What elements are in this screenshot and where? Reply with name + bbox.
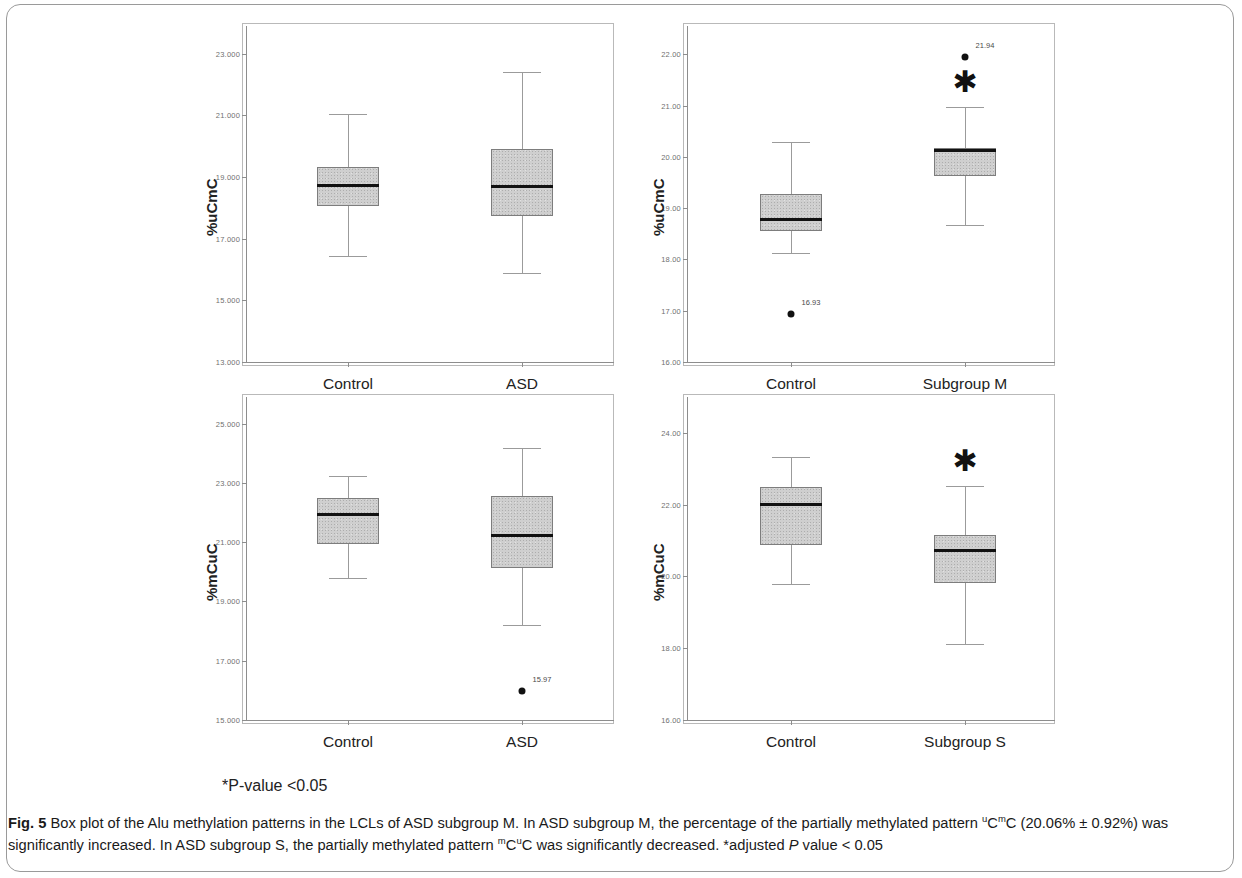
median-line (934, 149, 996, 152)
whisker-lower (791, 231, 792, 253)
whisker-cap-lower (772, 253, 809, 254)
outlier-value-label: 15.97 (533, 675, 552, 684)
y-axis-tick (242, 177, 247, 178)
y-axis-tick (683, 259, 688, 260)
y-axis-tick (242, 239, 247, 240)
box-iqr (317, 498, 379, 545)
x-axis-tick (522, 363, 523, 367)
whisker-cap-upper (503, 448, 540, 449)
x-axis-line (246, 720, 614, 721)
x-axis-tick (791, 721, 792, 725)
x-axis-tick (791, 363, 792, 367)
y-axis-tick (242, 720, 247, 721)
outlier-point (519, 688, 526, 695)
caption-text-3: was significantly decreased. *adjusted (532, 837, 788, 853)
y-axis-line (687, 397, 688, 720)
whisker-cap-upper (772, 142, 809, 143)
y-axis-tick-label: 25.000 (188, 419, 240, 428)
y-axis-title: %mCuC (650, 543, 667, 601)
y-axis-tick (683, 576, 688, 577)
box-iqr (934, 148, 996, 176)
caption-c2: C (1006, 815, 1017, 831)
y-axis-tick-label: 18.00 (629, 255, 681, 264)
whisker-cap-lower (329, 578, 366, 579)
whisker-upper (522, 448, 523, 496)
whisker-cap-lower (946, 225, 983, 226)
y-axis-tick (242, 542, 247, 543)
whisker-lower (965, 583, 966, 644)
pvalue-note: *P-value <0.05 (222, 777, 327, 795)
outlier-value-label: 16.93 (802, 298, 821, 307)
significance-asterisk: ✱ (952, 67, 977, 97)
whisker-upper (965, 107, 966, 148)
plot-area (683, 23, 1055, 366)
box-iqr (491, 496, 553, 569)
y-axis-title: %uCmC (203, 178, 220, 236)
median-line (934, 549, 996, 552)
whisker-upper (522, 72, 523, 150)
y-axis-tick (683, 106, 688, 107)
y-axis-tick-label: 21.000 (188, 111, 240, 120)
y-axis-tick (683, 648, 688, 649)
y-axis-tick-label: 15.000 (188, 296, 240, 305)
y-axis-tick-label: 23.000 (188, 478, 240, 487)
y-axis-tick (242, 115, 247, 116)
y-axis-title: %mCuC (203, 543, 220, 601)
x-axis-category-label: Control (766, 733, 816, 751)
x-axis-tick (965, 721, 966, 725)
whisker-cap-lower (946, 644, 983, 645)
whisker-cap-lower (329, 256, 366, 257)
figure-caption: Fig. 5 Box plot of the Alu methylation p… (8, 812, 1234, 856)
caption-c3: C (506, 837, 517, 853)
x-axis-tick (348, 363, 349, 367)
whisker-upper (791, 457, 792, 486)
y-axis-tick-label: 13.000 (188, 358, 240, 367)
caption-text-4: value < 0.05 (798, 837, 883, 853)
x-axis-tick (965, 363, 966, 367)
x-axis-category-label: Control (323, 733, 373, 751)
box-iqr (760, 487, 822, 545)
boxplot-panel-grid: 13.00015.00017.00019.00021.00023.000%uCm… (0, 0, 1242, 790)
plot-area (242, 394, 614, 724)
y-axis-title: %uCmC (650, 178, 667, 236)
y-axis-line (246, 397, 247, 720)
y-axis-tick (242, 661, 247, 662)
whisker-lower (522, 216, 523, 274)
outlier-point (788, 311, 795, 318)
y-axis-tick (683, 54, 688, 55)
x-axis-category-label: Subgroup M (923, 375, 1007, 393)
x-axis-category-label: ASD (506, 375, 538, 393)
median-line (317, 513, 379, 516)
whisker-lower (791, 545, 792, 584)
median-line (491, 534, 553, 537)
whisker-lower (522, 568, 523, 625)
y-axis-tick (683, 157, 688, 158)
y-axis-tick-label: 16.00 (629, 716, 681, 725)
y-axis-tick (683, 208, 688, 209)
y-axis-tick-label: 22.00 (629, 50, 681, 59)
outlier-value-label: 21.94 (976, 41, 995, 50)
median-line (317, 184, 379, 187)
whisker-cap-upper (503, 72, 540, 73)
whisker-upper (348, 114, 349, 167)
caption-figure-number: Fig. 5 (8, 815, 46, 831)
y-axis-tick-label: 17.00 (629, 306, 681, 315)
x-axis-category-label: ASD (506, 733, 538, 751)
whisker-cap-lower (772, 584, 809, 585)
caption-c4: C (522, 837, 533, 853)
outlier-point (962, 54, 969, 61)
box-iqr (934, 535, 996, 583)
y-axis-tick (242, 54, 247, 55)
whisker-cap-upper (329, 114, 366, 115)
whisker-lower (965, 176, 966, 225)
plot-area (242, 23, 614, 366)
y-axis-tick (242, 300, 247, 301)
y-axis-tick-label: 21.00 (629, 101, 681, 110)
x-axis-tick (522, 721, 523, 725)
x-axis-line (687, 720, 1055, 721)
whisker-lower (348, 206, 349, 255)
whisker-cap-upper (946, 107, 983, 108)
y-axis-tick (683, 505, 688, 506)
y-axis-line (246, 26, 247, 362)
caption-italic-p: P (789, 837, 799, 853)
